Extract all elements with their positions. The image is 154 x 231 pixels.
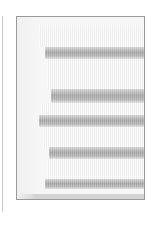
tube-band-light xyxy=(43,127,144,147)
tube-band-light xyxy=(39,25,144,47)
tube-band-light xyxy=(41,103,144,115)
tube-band-dark xyxy=(39,115,144,127)
bottom-strip xyxy=(17,194,144,199)
tube-band-dark xyxy=(51,89,144,103)
tube-band-dark xyxy=(45,179,144,189)
tube-band-light xyxy=(47,159,144,179)
tube-band-dark xyxy=(49,147,144,159)
photo-frame xyxy=(16,16,145,200)
tube-band-dark xyxy=(45,47,144,59)
left-edge-line xyxy=(2,16,3,212)
left-curved-edge xyxy=(17,17,35,199)
tube-band-light xyxy=(47,59,144,89)
